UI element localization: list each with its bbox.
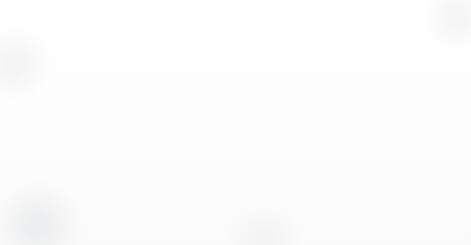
fullerene-atom-front	[139, 93, 161, 115]
panel-a-label: (a)	[14, 217, 30, 231]
panel-b-cage-cluster: (b)	[236, 0, 471, 245]
cluster-atom	[391, 119, 419, 147]
panel-b-label: (b)	[258, 217, 274, 231]
fullerene-atom-front	[77, 85, 99, 107]
panel-a-endohedral-fullerene: (a)	[0, 0, 236, 245]
cage-cluster-diagram	[236, 0, 471, 245]
fullerene-cage-diagram	[0, 0, 236, 245]
cluster-atom	[338, 138, 366, 166]
fullerene-atom-front	[123, 131, 145, 153]
figure-root: (a) (b)	[0, 0, 471, 245]
cluster-bond	[397, 88, 409, 123]
endohedral-atom	[96, 96, 130, 130]
fullerene-atom-front	[86, 127, 108, 149]
